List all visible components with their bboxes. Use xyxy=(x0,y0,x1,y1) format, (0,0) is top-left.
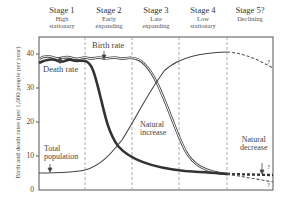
stage-5-header: Stage 5? Declining xyxy=(226,6,274,22)
y-tick-20: 20 xyxy=(22,117,34,126)
stage-1-header: Stage 1 High stationary xyxy=(38,6,86,29)
stage-4-desc: Low xyxy=(179,15,227,22)
death-rate-label: Death rate xyxy=(43,65,78,73)
y-tick-30: 30 xyxy=(22,83,34,92)
stage-1-title: Stage 1 xyxy=(38,6,86,15)
annotation-arrows xyxy=(48,51,264,174)
stage-3-title: Stage 3 xyxy=(132,6,180,15)
question-mark-death: ? xyxy=(267,181,270,188)
total-population-line2: population xyxy=(44,153,78,161)
y-tick-0: 0 xyxy=(22,185,34,194)
question-mark-population: ? xyxy=(267,58,270,65)
birth-rate-label: Birth rate xyxy=(92,41,124,49)
y-axis-label: Birth and death rates (per 1,000 people … xyxy=(14,38,21,188)
natural-decrease-label: Natural decrease xyxy=(240,136,268,152)
stage-4-title: Stage 4 xyxy=(179,6,227,15)
stage-5-title: Stage 5? xyxy=(226,6,274,15)
y-tick-10: 10 xyxy=(22,151,34,160)
question-mark-birth: ? xyxy=(267,163,270,170)
chart-canvas xyxy=(0,0,290,209)
stage-2-desc: Early xyxy=(85,15,133,22)
stage-5-desc: Declining xyxy=(226,15,274,22)
natural-increase-line2: increase xyxy=(140,129,166,137)
stage-1-desc: High xyxy=(38,15,86,22)
stage-3-desc: Late xyxy=(132,15,180,22)
stage-2-header: Stage 2 Early expanding xyxy=(85,6,133,29)
stage-3-desc2: expanding xyxy=(132,22,180,29)
stage-2-desc2: expanding xyxy=(85,22,133,29)
stage-4-desc2: stationary xyxy=(179,22,227,29)
stage-2-title: Stage 2 xyxy=(85,6,133,15)
stage-4-header: Stage 4 Low stationary xyxy=(179,6,227,29)
stage-3-header: Stage 3 Late expanding xyxy=(132,6,180,29)
natural-increase-label: Natural increase xyxy=(140,121,166,137)
y-tick-40: 40 xyxy=(22,49,34,58)
total-population-label: Total population xyxy=(44,145,78,161)
natural-decrease-line2: decrease xyxy=(240,144,268,152)
stage-1-desc2: stationary xyxy=(38,22,86,29)
